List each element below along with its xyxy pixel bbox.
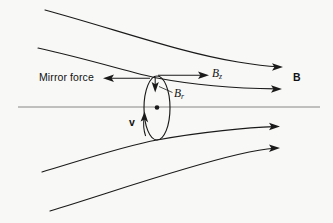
out-of-page-dot-icon (155, 105, 160, 110)
lower-outer-field-line (50, 148, 274, 211)
br-label-symbol: B (174, 87, 181, 99)
v-arrowhead (141, 112, 149, 123)
br-leader-line (159, 87, 173, 93)
v-vector-label: v (129, 117, 135, 128)
lower-inner-field-line (42, 127, 274, 172)
br-label-subscript: r (181, 92, 184, 101)
bz-label-symbol: B (212, 67, 219, 79)
diagram-canvas (0, 0, 333, 223)
mirror-force-label: Mirror force (39, 72, 94, 83)
b-vector-label: B (293, 72, 301, 83)
magnetic-mirror-figure: Mirror force Bz Br B v (0, 0, 333, 223)
bz-label: Bz (212, 68, 222, 81)
bz-label-subscript: z (219, 72, 222, 81)
br-label: Br (174, 88, 184, 101)
